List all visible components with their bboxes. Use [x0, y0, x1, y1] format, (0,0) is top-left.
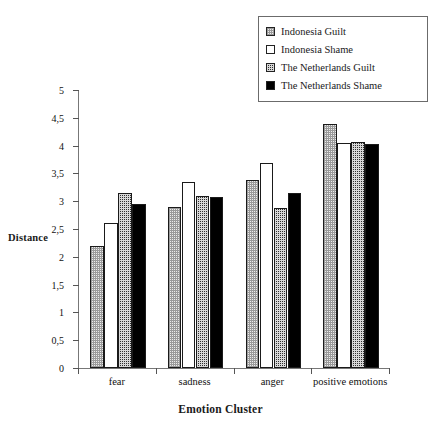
bar-netherlands-guilt: [274, 208, 288, 368]
y-axis-tick-label: 2,5: [52, 224, 65, 235]
bar-indonesia-shame: [337, 143, 351, 368]
legend-item-label: Indonesia Shame: [281, 44, 353, 55]
x-axis-label: fear: [78, 375, 156, 388]
bar-indonesia-guilt: [168, 207, 182, 368]
bar-netherlands-shame: [132, 204, 146, 368]
bar-indonesia-shame: [104, 223, 118, 368]
y-axis-tick-label: 4,5: [52, 112, 65, 123]
light-dotted-swatch-icon: [266, 27, 275, 36]
y-axis-tick-label: 1: [59, 307, 64, 318]
bar-indonesia-guilt: [323, 124, 337, 368]
bar-series-group: [79, 90, 390, 368]
x-axis-tick: [156, 368, 157, 374]
x-axis-label: sadness: [156, 375, 234, 388]
x-axis-title: Emotion Cluster: [0, 403, 441, 415]
bar-indonesia-guilt: [246, 180, 260, 368]
x-axis-tick: [78, 368, 79, 374]
bar-chart: Indonesia Guilt Indonesia Shame The Neth…: [0, 0, 441, 427]
legend-item-label: The Netherlands Guilt: [281, 62, 375, 73]
y-axis-tick-label: 4: [59, 140, 64, 151]
y-axis-tick-label: 3: [59, 196, 64, 207]
y-axis-tick-label: 3,5: [52, 168, 65, 179]
bar-netherlands-guilt: [351, 142, 365, 368]
y-axis-tick-label: 0: [59, 363, 64, 374]
white-swatch-icon: [266, 45, 275, 54]
bar-netherlands-guilt: [196, 196, 210, 368]
plot-area: 00,511,522,533,544,55: [78, 90, 390, 369]
x-axis-tick: [234, 368, 235, 374]
bar-indonesia-guilt: [90, 246, 104, 368]
x-axis-tick: [311, 368, 312, 374]
x-axis-label: anger: [234, 375, 312, 388]
bar-netherlands-shame: [210, 197, 224, 368]
bar-netherlands-shame: [365, 144, 379, 368]
legend-item: Indonesia Guilt: [266, 23, 421, 40]
y-axis-tick-label: 5: [59, 85, 64, 96]
y-axis-tick-label: 0,5: [52, 335, 65, 346]
black-swatch-icon: [266, 81, 275, 90]
x-axis-label: positive emotions: [311, 375, 389, 388]
y-axis-tick-label: 1,5: [52, 279, 65, 290]
bar-indonesia-shame: [182, 182, 196, 368]
y-axis-tick-label: 2: [59, 251, 64, 262]
x-axis-tick: [389, 368, 390, 374]
bar-netherlands-guilt: [118, 193, 132, 368]
dark-dotted-swatch-icon: [266, 63, 275, 72]
legend-item: The Netherlands Guilt: [266, 59, 421, 76]
bar-indonesia-shame: [260, 163, 274, 368]
bar-netherlands-shame: [288, 193, 302, 368]
legend-item: Indonesia Shame: [266, 41, 421, 58]
y-axis-title: Distance: [8, 232, 48, 243]
legend-item-label: Indonesia Guilt: [281, 26, 346, 37]
